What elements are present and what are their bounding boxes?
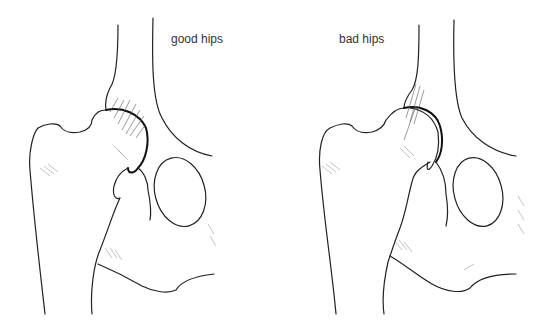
- bad-femur-outline-left: [319, 108, 404, 314]
- good-acetabulum-lower: [138, 168, 151, 220]
- bad-femur-outline-right: [383, 162, 430, 314]
- bad-ilium-left-edge: [404, 25, 419, 108]
- good-femur-outline-left: [30, 110, 106, 314]
- bad-shading: [322, 146, 524, 270]
- bad-ilium-right-edge: [454, 20, 516, 156]
- bad-femoral-head-rim: [404, 107, 442, 162]
- good-ilium-left-edge: [106, 25, 118, 110]
- good-obturator-foramen: [147, 152, 213, 233]
- bad-acetabulum-lower: [436, 162, 448, 226]
- bad-obturator-foramen: [446, 152, 510, 232]
- good-ischium-outline: [98, 264, 214, 292]
- good-femur-outline-right: [91, 168, 128, 314]
- bad-ischium-outline: [390, 256, 516, 291]
- good-hip-drawing: [30, 18, 216, 314]
- good-head-hatching: [110, 98, 146, 138]
- bad-hip-drawing: [319, 20, 524, 314]
- bad-head-hatching: [404, 84, 424, 140]
- good-femoral-head-rim: [106, 109, 148, 173]
- good-ilium-right-edge: [153, 18, 212, 156]
- hip-illustrations: [0, 0, 548, 326]
